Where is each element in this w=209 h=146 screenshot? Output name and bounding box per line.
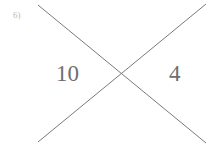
x-puzzle-right-value: 4 bbox=[169, 62, 181, 85]
x-puzzle-left-value: 10 bbox=[56, 62, 79, 85]
x-puzzle-canvas: 6) 10 4 bbox=[0, 0, 209, 146]
